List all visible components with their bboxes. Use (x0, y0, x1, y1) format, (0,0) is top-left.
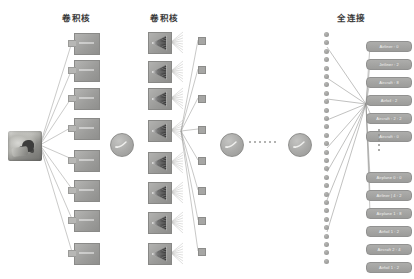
output-class-label: Aircraft 2 : 4 (366, 244, 412, 255)
fc-node (324, 32, 329, 37)
fc-node (324, 91, 329, 96)
ellipsis-dot (378, 149, 380, 151)
conv1-block (74, 88, 100, 110)
block-connector-tab (68, 250, 76, 257)
kernel-fan-icon (151, 246, 169, 262)
block-highlight (79, 219, 94, 221)
activation-curve-icon (221, 134, 243, 156)
conv1-block (74, 60, 100, 82)
conv1-block (74, 243, 100, 265)
block-connector-tab (68, 125, 76, 132)
block-highlight (79, 127, 94, 129)
feature-map-square (198, 217, 206, 225)
output-class-label: Airliner | 4 : 2 (366, 190, 412, 201)
fc-node (324, 234, 329, 239)
ellipsis-dot (264, 141, 266, 143)
kernel-fan-icon (151, 123, 169, 139)
block-highlight (79, 42, 94, 44)
feature-map-square (198, 157, 206, 165)
layer-title-conv2: 卷积核 (150, 11, 179, 23)
kernel-fan-icon (151, 64, 169, 80)
fc-node (324, 108, 329, 113)
ellipsis-dot (274, 141, 276, 143)
fc-node (324, 116, 329, 121)
fc-node (324, 74, 329, 79)
ellipsis-dot (378, 144, 380, 146)
activation-curve-icon (111, 134, 133, 156)
fc-node (324, 175, 329, 180)
diagram-connections (0, 0, 414, 279)
block-connector-tab (68, 40, 76, 47)
output-class-label: Airfoil 1 : 2 (366, 262, 412, 273)
fc-node (324, 66, 329, 71)
feature-map-square (198, 126, 206, 134)
conv1-block (74, 118, 100, 140)
fc-node (324, 158, 329, 163)
kernel-fan-icon (151, 215, 169, 231)
horizontal-ellipsis (249, 141, 276, 143)
vertical-ellipsis (378, 129, 380, 151)
conv1-block (74, 180, 100, 202)
block-connector-tab (68, 95, 76, 102)
block-highlight (79, 159, 94, 161)
feature-map-square (198, 248, 206, 256)
kernel-fan-icon (151, 35, 169, 51)
output-class-label: Airplane 1 : 8 (366, 208, 412, 219)
ellipsis-dot (378, 134, 380, 136)
fc-node (324, 192, 329, 197)
fc-node (324, 200, 329, 205)
conv2-kernel-block (148, 152, 172, 174)
conv2-kernel-block (148, 120, 172, 142)
layer-title-conv1: 卷积核 (62, 11, 91, 23)
activation-function-circle (110, 133, 134, 157)
feature-map-square (198, 187, 206, 195)
output-class-label: Airfoil : 2 (366, 95, 412, 106)
activation-function-circle (288, 133, 312, 157)
output-class-label: Aircraft : 8 (366, 77, 412, 88)
kernel-fan-icon (151, 185, 169, 201)
output-class-label: Airfoil 1 : 2 (366, 226, 412, 237)
output-class-label: Jetliner : 2 (366, 59, 412, 70)
fc-node (324, 133, 329, 138)
feature-map-square (198, 66, 206, 74)
activation-curve-icon (289, 134, 311, 156)
conv2-kernel-block (148, 243, 172, 265)
ellipsis-dot (378, 129, 380, 131)
block-highlight (79, 97, 94, 99)
output-class-label: Aircraft : 0 (366, 131, 412, 142)
fc-node (324, 259, 329, 264)
block-connector-tab (68, 67, 76, 74)
conv1-block (74, 33, 100, 55)
ellipsis-dot (378, 139, 380, 141)
conv2-kernel-block (148, 212, 172, 234)
feature-map-square (198, 95, 206, 103)
conv1-block (74, 210, 100, 232)
ellipsis-dot (254, 141, 256, 143)
ellipsis-dot (269, 141, 271, 143)
output-class-label: Aircraft : 2 : 2 (366, 113, 412, 124)
fc-node (324, 217, 329, 222)
conv2-kernel-block (148, 61, 172, 83)
kernel-fan-icon (151, 91, 169, 107)
conv2-kernel-block (148, 32, 172, 54)
fc-node (324, 150, 329, 155)
block-highlight (79, 69, 94, 71)
feature-map-square (198, 37, 206, 45)
block-connector-tab (68, 157, 76, 164)
ellipsis-dot (259, 141, 261, 143)
conv1-block (74, 150, 100, 172)
fc-node (324, 49, 329, 54)
output-class-label: Airliner : 0 (366, 41, 412, 52)
block-highlight (79, 252, 94, 254)
ellipsis-dot (249, 141, 251, 143)
kernel-fan-icon (151, 155, 169, 171)
block-connector-tab (68, 187, 76, 194)
layer-title-fully-connected: 全连接 (337, 11, 366, 23)
block-highlight (79, 189, 94, 191)
input-image-thumbnail (8, 131, 42, 161)
fc-node (324, 242, 329, 247)
conv2-kernel-block (148, 88, 172, 110)
block-connector-tab (68, 217, 76, 224)
output-class-label: Airplane 0 : 0 (366, 172, 412, 183)
activation-function-circle (220, 133, 244, 157)
